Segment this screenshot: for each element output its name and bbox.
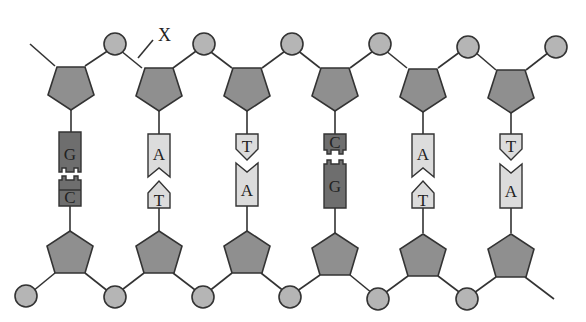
base-label: C — [329, 133, 340, 152]
phosphate-circle — [457, 36, 479, 58]
sugar-pentagon — [136, 68, 182, 111]
phosphate-circle — [545, 36, 567, 58]
base-label: G — [64, 145, 76, 164]
base-pair-1: G C — [59, 132, 81, 207]
base-label: A — [153, 145, 166, 164]
base-label: G — [329, 177, 341, 196]
sugar-pentagon — [224, 68, 270, 111]
phosphate-circle — [192, 286, 214, 308]
phosphate-circle — [104, 33, 126, 55]
base-label: A — [505, 182, 518, 201]
base-pair-6: T A — [500, 134, 522, 208]
base-label: T — [506, 137, 517, 156]
sugar-pentagon — [224, 231, 270, 273]
phosphate-circle — [281, 33, 303, 55]
sugar-pentagon — [48, 67, 94, 110]
bottom-sugars — [47, 231, 534, 277]
bottom-phosphates — [15, 285, 478, 310]
base-label: T — [242, 137, 253, 156]
base-label: C — [64, 188, 75, 207]
dna-diagram: X G C A T — [0, 0, 586, 322]
phosphate-circle — [104, 286, 126, 308]
base-label: T — [154, 191, 165, 210]
top-sugars — [48, 67, 534, 113]
phosphate-circle — [193, 33, 215, 55]
sugar-pentagon — [136, 231, 182, 273]
base-label: T — [418, 191, 429, 210]
phosphate-circle — [15, 285, 37, 307]
phosphate-circle — [279, 286, 301, 308]
base-pair-2: A T — [148, 134, 170, 210]
base-pair-5: A T — [412, 134, 434, 210]
phosphate-circle — [367, 288, 389, 310]
phosphate-circle — [456, 288, 478, 310]
base-pair-4: C G — [324, 133, 346, 208]
bottom-stems — [70, 206, 511, 233]
phosphate-circle — [369, 33, 391, 55]
sugar-pentagon — [312, 68, 358, 111]
base-pair-3: T A — [236, 134, 258, 206]
sugar-pentagon — [47, 231, 93, 273]
top-stems — [71, 110, 511, 134]
top-phosphates — [104, 33, 567, 58]
sugar-pentagon — [400, 234, 446, 276]
base-label: A — [417, 145, 430, 164]
sugar-pentagon — [488, 70, 534, 113]
label-x: X — [158, 25, 171, 45]
sugar-pentagon — [488, 234, 534, 277]
base-label: A — [241, 181, 254, 200]
sugar-pentagon — [312, 233, 358, 275]
sugar-pentagon — [400, 69, 446, 112]
